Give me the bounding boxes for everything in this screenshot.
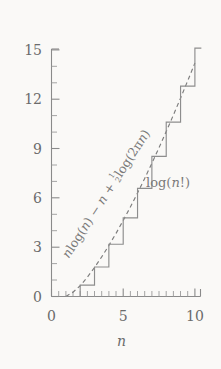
logfact-n: n <box>171 175 179 190</box>
annotation-log-factorial: log(n!) <box>146 176 190 189</box>
x-tick-label-0: 0 <box>47 309 56 323</box>
y-tick-marks <box>52 50 60 297</box>
y-tick-label-12: 12 <box>12 92 42 106</box>
figure-container: 15 12 9 6 3 0 0 5 10 n nlog(n) − n + 12l… <box>0 0 221 369</box>
logfact-log: log( <box>146 175 171 190</box>
x-axis-title: n <box>117 333 126 349</box>
y-tick-label-6: 6 <box>12 191 42 205</box>
y-tick-label-15: 15 <box>12 43 42 57</box>
logfact-bang: !) <box>180 175 190 190</box>
y-tick-label-9: 9 <box>12 142 42 156</box>
y-tick-label-3: 3 <box>12 240 42 254</box>
series-log-factorial <box>66 48 202 296</box>
x-tick-label-5: 5 <box>119 309 128 323</box>
y-tick-label-0: 0 <box>12 290 42 304</box>
x-tick-label-10: 10 <box>186 309 204 323</box>
